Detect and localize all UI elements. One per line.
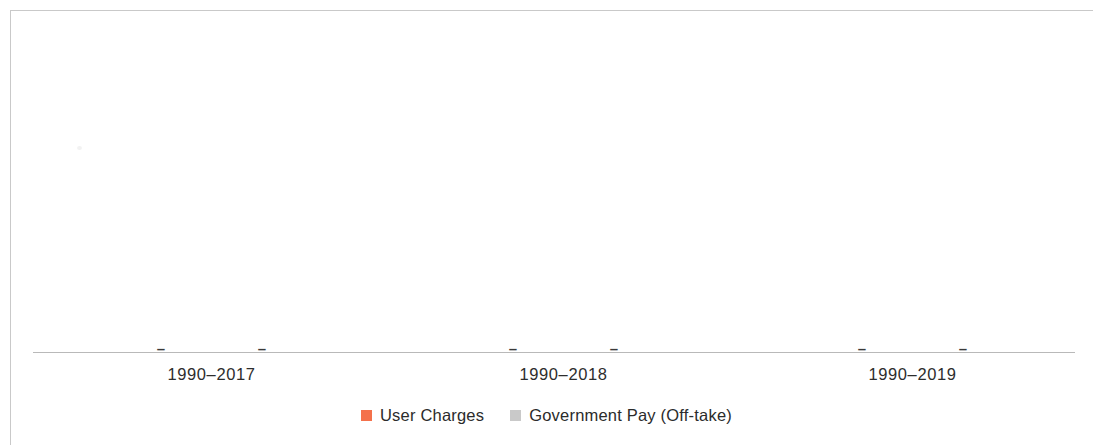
bar-value-label: – bbox=[940, 344, 986, 354]
x-axis-tick-label: 1990–2019 bbox=[811, 365, 1014, 384]
bars-row: – – bbox=[462, 318, 665, 354]
bar-value-label: – bbox=[239, 344, 285, 354]
legend-swatch-icon bbox=[510, 410, 521, 421]
x-axis-tick-label: 1990–2018 bbox=[462, 365, 665, 384]
category-group-1990-2018: – – 1990–2018 bbox=[462, 318, 665, 380]
legend-swatch-icon bbox=[361, 410, 372, 421]
bar-user-charges[interactable]: – bbox=[839, 344, 885, 354]
bar-user-charges[interactable]: – bbox=[490, 344, 536, 354]
bar-value-label: – bbox=[138, 344, 184, 354]
bars-row: – – bbox=[811, 318, 1014, 354]
category-group-1990-2017: – – 1990–2017 bbox=[110, 318, 313, 380]
legend-item-label: User Charges bbox=[380, 406, 484, 425]
legend-item-label: Government Pay (Off-take) bbox=[529, 406, 732, 425]
bars-row: – – bbox=[110, 318, 313, 354]
bar-user-charges[interactable]: – bbox=[138, 344, 184, 354]
chart-legend: User Charges Government Pay (Off-take) bbox=[0, 406, 1093, 425]
plot-area bbox=[33, 16, 1075, 352]
legend-item-user-charges[interactable]: User Charges bbox=[361, 406, 484, 425]
bar-value-label: – bbox=[839, 344, 885, 354]
legend-item-government-pay[interactable]: Government Pay (Off-take) bbox=[510, 406, 732, 425]
bar-chart: – – 1990–2017 – – 1990–2018 – – bbox=[0, 0, 1093, 445]
category-group-1990-2019: – – 1990–2019 bbox=[811, 318, 1014, 380]
bar-government-pay[interactable]: – bbox=[239, 344, 285, 354]
bar-government-pay[interactable]: – bbox=[940, 344, 986, 354]
bar-government-pay[interactable]: – bbox=[591, 344, 637, 354]
x-axis-tick-label: 1990–2017 bbox=[110, 365, 313, 384]
bar-value-label: – bbox=[591, 344, 637, 354]
bar-value-label: – bbox=[490, 344, 536, 354]
